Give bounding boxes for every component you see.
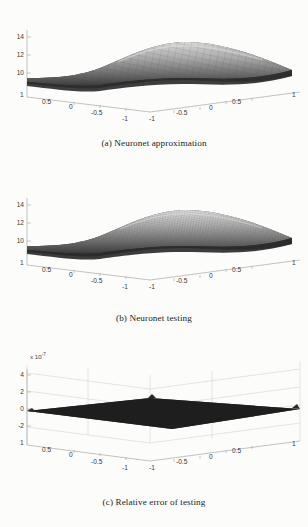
ytick-c-4: -1	[122, 465, 128, 472]
ztick-c-2: 0	[8, 406, 24, 413]
ytick-a-1: 0.5	[42, 99, 51, 106]
ytick-c-1: 0.5	[42, 447, 51, 454]
xtick-a-2: 0	[209, 105, 213, 112]
surface-plot-a-canvas	[0, 0, 308, 132]
axis-exponent-base-c: x 10	[30, 353, 42, 360]
figure-panel-b: 14 12 10 1 0.5 0 -0.5 -1 -1 -0.5 0 0.5 1…	[0, 165, 308, 345]
figure-panel-c: x 10-7 4 2 0 -2 1 0.5 0 -0.5 -1 -1 -0.5 …	[0, 345, 308, 527]
xtick-c-3: 0.5	[232, 448, 241, 455]
xtick-c-2: 0	[209, 454, 213, 461]
ztick-b-1: 12	[8, 220, 24, 227]
ytick-c-0: 1	[20, 440, 24, 447]
xtick-c-1: -0.5	[176, 459, 187, 466]
xtick-b-3: 0.5	[232, 267, 241, 274]
surface-plot-a: 14 12 10 1 0.5 0 -0.5 -1 -1 -0.5 0 0.5 1	[0, 0, 308, 132]
ytick-b-4: -1	[122, 284, 128, 291]
ytick-b-3: -0.5	[91, 278, 102, 285]
ytick-c-3: -0.5	[91, 459, 102, 466]
xtick-c-0: -1	[149, 465, 155, 472]
xtick-a-3: 0.5	[232, 99, 241, 106]
xtick-b-4: 1	[292, 260, 296, 267]
figure-caption-a: (a) Neuronet approximation	[0, 138, 308, 148]
ztick-b-0: 14	[8, 202, 24, 209]
ytick-b-2: 0	[69, 272, 73, 279]
xtick-b-2: 0	[209, 273, 213, 280]
ytick-a-2: 0	[69, 104, 73, 111]
ytick-c-2: 0	[69, 452, 73, 459]
ztick-c-1: 2	[8, 389, 24, 396]
ytick-a-0: 1	[20, 92, 24, 99]
surface-plot-c-canvas	[0, 345, 308, 477]
ztick-c-0: 4	[8, 372, 24, 379]
error-surface-fill-c	[27, 398, 300, 429]
surface-plot-b-canvas	[0, 165, 308, 297]
axis-exponent-label-c: x 10-7	[30, 353, 46, 360]
xtick-a-1: -0.5	[176, 110, 187, 117]
ytick-b-0: 1	[20, 260, 24, 267]
ytick-a-4: -1	[122, 116, 128, 123]
figure-page: 14 12 10 1 0.5 0 -0.5 -1 -1 -0.5 0 0.5 1…	[0, 0, 308, 527]
ztick-a-1: 12	[8, 52, 24, 59]
error-spike-back-c	[148, 394, 156, 398]
xtick-b-0: -1	[149, 284, 155, 291]
figure-caption-c: (c) Relative error of testing	[0, 497, 308, 507]
surface-plot-b: 14 12 10 1 0.5 0 -0.5 -1 -1 -0.5 0 0.5 1	[0, 165, 308, 297]
ytick-b-1: 0.5	[42, 267, 51, 274]
figure-caption-b: (b) Neuronet testing	[0, 313, 308, 323]
ztick-a-2: 10	[8, 70, 24, 77]
xtick-c-4: 1	[292, 441, 296, 448]
figure-panel-a: 14 12 10 1 0.5 0 -0.5 -1 -1 -0.5 0 0.5 1…	[0, 0, 308, 165]
error-spike-right-c	[292, 404, 300, 409]
ztick-a-0: 14	[8, 34, 24, 41]
xtick-b-1: -0.5	[176, 278, 187, 285]
ztick-b-2: 10	[8, 238, 24, 245]
axis-exponent-power-c: -7	[42, 352, 46, 357]
xtick-a-4: 1	[292, 92, 296, 99]
ytick-a-3: -0.5	[91, 110, 102, 117]
ztick-c-3: -2	[6, 423, 24, 430]
surface-plot-c: x 10-7 4 2 0 -2 1 0.5 0 -0.5 -1 -1 -0.5 …	[0, 345, 308, 477]
xtick-a-0: -1	[149, 116, 155, 123]
